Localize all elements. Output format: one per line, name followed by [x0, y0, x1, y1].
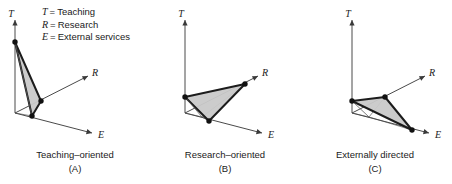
vertex-external — [206, 118, 211, 123]
vertex-teaching — [12, 39, 17, 44]
vertex-research — [38, 98, 43, 103]
caption-panel-c: Externally directed (C) — [300, 148, 450, 176]
orientation-triangle — [352, 97, 412, 130]
axis-label-t: T — [8, 8, 15, 19]
axis-e-line — [185, 113, 262, 133]
axis-e-arrowhead — [86, 129, 92, 134]
axis-label-e: E — [97, 129, 104, 140]
legend-equals-2: = — [48, 31, 58, 42]
axis-e-arrowhead — [423, 129, 429, 134]
legend-equals-0: = — [48, 6, 58, 17]
caption-title-a: Teaching–oriented — [0, 148, 150, 162]
legend-term-research: Research — [58, 19, 99, 30]
vertex-teaching — [349, 98, 354, 103]
legend: T=Teaching R=Research E=External service… — [42, 6, 192, 44]
vertex-external — [409, 127, 414, 132]
axis-e-line — [15, 113, 92, 133]
caption-title-c: Externally directed — [300, 148, 450, 162]
orientation-triangle — [15, 42, 41, 116]
axis-label-r: R — [261, 67, 268, 78]
legend-item-research: R=Research — [42, 19, 192, 32]
legend-term-teaching: Teaching — [57, 6, 95, 17]
legend-equals-1: = — [48, 19, 58, 30]
axis-label-e: E — [434, 129, 441, 140]
caption-tag-b: (B) — [150, 162, 300, 176]
caption-panel-a: Teaching–oriented (A) — [0, 148, 150, 176]
vertex-research — [242, 81, 247, 86]
legend-item-teaching: T=Teaching — [42, 6, 192, 19]
axis-label-r: R — [91, 67, 98, 78]
caption-tag-c: (C) — [300, 162, 450, 176]
panel-b: TRE — [178, 8, 274, 140]
axis-t-arrowhead — [349, 20, 354, 26]
axis-label-e: E — [267, 129, 274, 140]
axis-label-t: T — [345, 8, 352, 19]
axis-e-arrowhead — [256, 129, 262, 134]
vertex-teaching — [182, 94, 187, 99]
vertex-external — [29, 113, 34, 118]
legend-item-external-services: E=External services — [42, 31, 192, 44]
caption-panel-b: Research–oriented (B) — [150, 148, 300, 176]
panel-c: TRE — [345, 8, 441, 140]
caption-title-b: Research–oriented — [150, 148, 300, 162]
legend-key-t: T — [42, 6, 48, 17]
vertex-research — [382, 94, 387, 99]
caption-tag-a: (A) — [0, 162, 150, 176]
figure-root: TRETRETRE T=Teaching R=Research E=Extern… — [0, 0, 452, 184]
axis-label-r: R — [428, 67, 435, 78]
legend-term-external-services: External services — [58, 31, 130, 42]
axis-t-arrowhead — [12, 20, 17, 26]
